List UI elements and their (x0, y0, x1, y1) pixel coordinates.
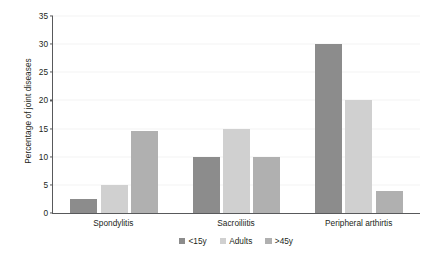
bar[interactable] (193, 157, 220, 213)
legend-item[interactable]: >45y (265, 236, 293, 246)
bar[interactable] (376, 191, 403, 214)
x-axis-labels: SpondylitisSacroiliitisPeripheral arthir… (52, 218, 420, 228)
bar[interactable] (101, 185, 128, 213)
y-tick-label: 5 (43, 180, 48, 190)
bar[interactable] (70, 199, 97, 213)
y-tick-label: 25 (39, 67, 48, 77)
bar[interactable] (223, 129, 250, 213)
plot-area: 05101520253035 (52, 16, 420, 214)
bar-chart: Percentage of joint diseases 05101520253… (0, 0, 434, 253)
x-axis-label: Spondylitis (52, 218, 175, 228)
legend-item[interactable]: <15y (179, 236, 207, 246)
bar[interactable] (253, 157, 280, 213)
x-axis-label: Sacroiliitis (175, 218, 298, 228)
legend-swatch-icon (265, 238, 272, 245)
legend-item[interactable]: Adults (220, 236, 253, 246)
legend-swatch-icon (220, 238, 227, 245)
legend-label: Adults (229, 236, 252, 246)
y-tick-label: 35 (39, 11, 48, 21)
bar-group (53, 16, 175, 213)
bar-group (175, 16, 297, 213)
legend-label: <15y (188, 236, 206, 246)
y-tick-label: 30 (39, 39, 48, 49)
y-tick-label: 10 (39, 152, 48, 162)
bar-group (298, 16, 420, 213)
legend-label: >45y (275, 236, 293, 246)
y-tick-label: 0 (43, 208, 48, 218)
bar[interactable] (315, 44, 342, 213)
bar[interactable] (131, 131, 158, 213)
y-tick-label: 20 (39, 95, 48, 105)
y-axis-title: Percentage of joint diseases (23, 31, 33, 191)
x-axis-label: Peripheral arthirtis (297, 218, 420, 228)
chart-legend: <15yAdults>45y (52, 236, 420, 246)
y-tick-label: 15 (39, 124, 48, 134)
bar[interactable] (345, 100, 372, 213)
legend-swatch-icon (179, 238, 186, 245)
bar-groups (53, 16, 420, 213)
